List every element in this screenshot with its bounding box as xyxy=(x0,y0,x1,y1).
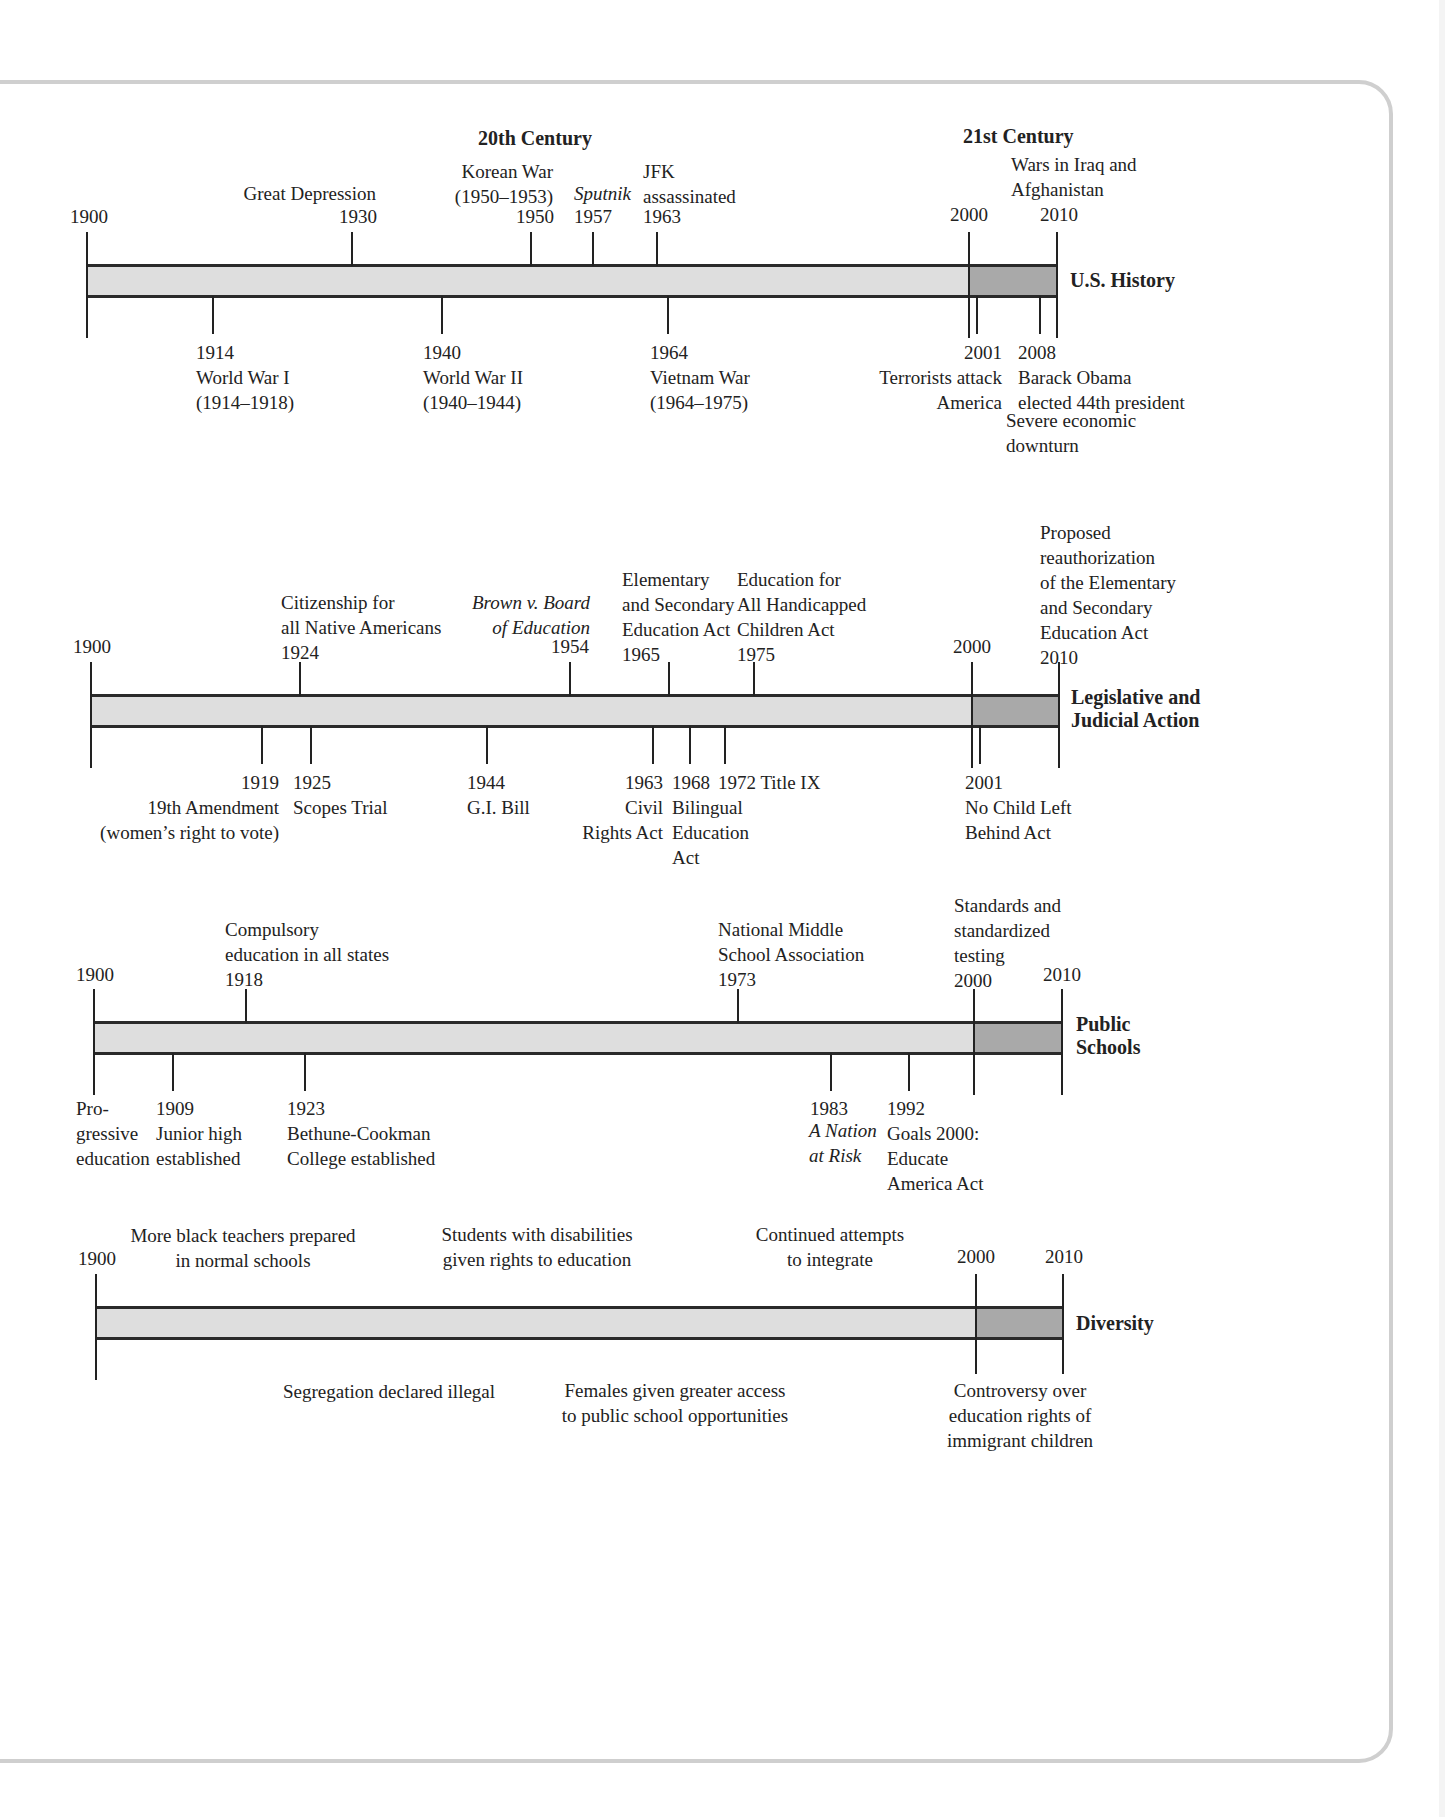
bar-21st-century xyxy=(972,694,1059,728)
bar-21st-century xyxy=(976,1306,1063,1340)
tick-1972 xyxy=(724,726,726,764)
tick-2008 xyxy=(1039,296,1041,334)
year-2000: 2000 xyxy=(950,202,988,227)
event-nclb: 2001 No Child Left Behind Act xyxy=(965,770,1072,845)
bar-21st-century xyxy=(974,1021,1061,1055)
tick-1923 xyxy=(304,1053,306,1091)
year-1900: 1900 xyxy=(78,1246,116,1271)
tick-1924 xyxy=(299,662,301,696)
tick-2010 xyxy=(1061,989,1063,1095)
header-20th-century: 20th Century xyxy=(478,125,592,151)
event-esea: Elementary and Secondary Education Act 1… xyxy=(622,567,734,667)
event-goals-2000: 1992 Goals 2000: Educate America Act xyxy=(887,1096,984,1196)
event-national-middle-school-assoc: National Middle School Association 1973 xyxy=(718,917,864,992)
tick-1918 xyxy=(245,989,247,1023)
event-disability-rights: Students with disabilities given rights … xyxy=(432,1222,642,1272)
event-terrorist-attack: 2001 Terrorists attack America xyxy=(860,340,1002,415)
year-2000: 2000 xyxy=(957,1244,995,1269)
event-compulsory-education: Compulsory education in all states 1918 xyxy=(225,917,389,992)
page-edge xyxy=(1439,0,1445,1817)
track-label-legislative-judicial: Legislative and Judicial Action xyxy=(1071,686,1200,732)
year-2010: 2010 xyxy=(1040,202,1078,227)
event-obama-elected: 2008 Barack Obama elected 44th president xyxy=(1018,340,1185,415)
track-label-public-schools: Public Schools xyxy=(1076,1013,1140,1059)
year-2010: 2010 xyxy=(1043,962,1081,987)
tick-1957 xyxy=(592,232,594,266)
event-immigrant-children: Controversy over education rights of imm… xyxy=(940,1378,1100,1453)
event-brown-v-board: Brown v. Board of Education xyxy=(440,590,590,640)
event-integration-attempts: Continued attempts to integrate xyxy=(750,1222,910,1272)
tick-1954 xyxy=(569,662,571,696)
tick-1973 xyxy=(737,989,739,1023)
tick-1963 xyxy=(656,232,658,266)
tick-2010 xyxy=(1056,232,1058,338)
year-2010: 2010 xyxy=(1045,1244,1083,1269)
tick-1900 xyxy=(86,232,88,338)
event-sputnik: Sputnik xyxy=(574,181,631,206)
tick-1900 xyxy=(93,989,95,1095)
year-2000: 2000 xyxy=(953,634,991,659)
event-native-citizenship: Citizenship for all Native Americans 192… xyxy=(281,590,441,665)
tick-1944 xyxy=(486,726,488,764)
bar-20th-century xyxy=(87,264,969,298)
year-1954: 1954 xyxy=(551,634,589,659)
tick-1992 xyxy=(908,1053,910,1091)
tick-1968 xyxy=(689,726,691,764)
event-world-war-1: 1914 World War I (1914–1918) xyxy=(196,340,294,415)
event-civil-rights-act: 1963 Civil Rights Act xyxy=(570,770,663,845)
tick-1919 xyxy=(261,726,263,764)
event-junior-high: 1909 Junior high established xyxy=(156,1096,242,1171)
tick-1900 xyxy=(90,662,92,768)
year-1963: 1963 xyxy=(643,204,681,229)
tick-2000 xyxy=(968,232,970,338)
tick-1930 xyxy=(351,232,353,266)
tick-1909 xyxy=(172,1053,174,1091)
track-label-us-history: U.S. History xyxy=(1070,268,1175,293)
tick-1900 xyxy=(95,1274,97,1380)
event-korean-war: Korean War (1950–1953) xyxy=(420,159,553,209)
tick-1914 xyxy=(212,296,214,334)
event-economic-downturn: Severe economic downturn xyxy=(1006,408,1136,458)
tick-1963 xyxy=(652,726,654,764)
event-jfk-assassinated: JFK assassinated xyxy=(643,159,736,209)
event-world-war-2: 1940 World War II (1940–1944) xyxy=(423,340,523,415)
tick-1950 xyxy=(530,232,532,266)
event-proposed-reauthorization: Proposed reauthorization of the Elementa… xyxy=(1040,520,1176,670)
event-title-ix: 1972 Title IX xyxy=(718,770,820,795)
tick-1940 xyxy=(441,296,443,334)
tick-2010 xyxy=(1058,662,1060,768)
figure-frame xyxy=(0,80,1393,1763)
tick-1975 xyxy=(753,662,755,696)
tick-2000 xyxy=(973,989,975,1095)
event-gi-bill: 1944 G.I. Bill xyxy=(467,770,530,820)
tick-1964 xyxy=(667,296,669,334)
event-wars-iraq-afghanistan: Wars in Iraq and Afghanistan xyxy=(1011,152,1137,202)
event-great-depression: Great Depression xyxy=(230,181,376,206)
bar-20th-century xyxy=(96,1306,976,1340)
event-vietnam-war: 1964 Vietnam War (1964–1975) xyxy=(650,340,750,415)
event-handicapped-children-act: Education for All Handicapped Children A… xyxy=(737,567,866,667)
year-1900: 1900 xyxy=(70,204,108,229)
year-1930: 1930 xyxy=(339,204,377,229)
header-21st-century: 21st Century xyxy=(963,123,1074,149)
tick-2001 xyxy=(979,726,981,764)
tick-1965 xyxy=(668,662,670,696)
year-1950: 1950 xyxy=(516,204,554,229)
year-1957: 1957 xyxy=(574,204,612,229)
event-black-teachers: More black teachers prepared in normal s… xyxy=(127,1223,359,1273)
tick-2000 xyxy=(975,1274,977,1374)
tick-1925 xyxy=(310,726,312,764)
bar-20th-century xyxy=(94,1021,974,1055)
bar-20th-century xyxy=(91,694,972,728)
year-1900: 1900 xyxy=(76,962,114,987)
event-scopes-trial: 1925 Scopes Trial xyxy=(293,770,388,820)
tick-2000 xyxy=(971,662,973,768)
tick-2010 xyxy=(1062,1274,1064,1374)
year-1900: 1900 xyxy=(73,634,111,659)
tick-2001 xyxy=(976,296,978,334)
event-progressive-education: Pro- gressive education xyxy=(76,1096,150,1171)
tick-1983 xyxy=(830,1053,832,1091)
bar-21st-century xyxy=(969,264,1058,298)
event-19th-amendment: 1919 19th Amendment (women’s right to vo… xyxy=(90,770,279,845)
event-bethune-cookman: 1923 Bethune-Cookman College established xyxy=(287,1096,435,1171)
